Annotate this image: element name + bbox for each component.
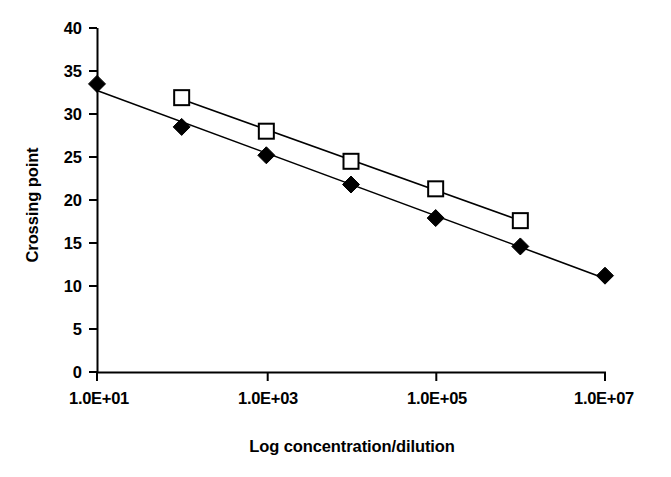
y-tick-label: 25 [64, 148, 82, 166]
y-tick-label: 10 [64, 277, 82, 295]
x-axis-title: Log concentration/dilution [249, 437, 454, 455]
data-point-open-square [344, 154, 359, 169]
data-point-open-square [513, 213, 528, 228]
data-point-open-square [428, 181, 443, 196]
y-tick-label: 30 [64, 105, 82, 123]
y-tick-label: 35 [64, 62, 82, 80]
y-tick-label: 5 [73, 320, 82, 338]
x-tick-label: 1.0E+05 [407, 389, 467, 407]
y-tick-label: 15 [64, 234, 82, 252]
y-tick-label: 40 [64, 19, 82, 37]
y-tick-label: 20 [64, 191, 82, 209]
x-tick-label: 1.0E+07 [574, 389, 634, 407]
y-axis-title: Crossing point [23, 147, 41, 263]
chart-canvas: 40 35 30 25 20 15 10 5 0 1.0E+01 1.0E+03… [0, 0, 671, 477]
x-tick-label: 1.0E+01 [69, 389, 129, 407]
y-tick-label: 0 [73, 363, 82, 381]
x-tick-label: 1.0E+03 [238, 389, 298, 407]
chart-figure: 40 35 30 25 20 15 10 5 0 1.0E+01 1.0E+03… [0, 0, 671, 477]
data-point-open-square [174, 90, 189, 105]
data-point-open-square [259, 124, 274, 139]
